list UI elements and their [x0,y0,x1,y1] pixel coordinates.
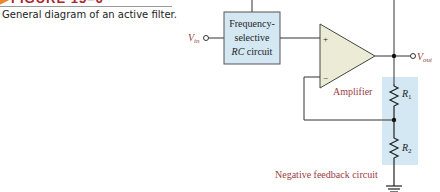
output-node [392,54,396,58]
feedback-network-highlight [382,77,418,165]
vin-label: Vin [188,32,200,45]
ground-icon [386,186,402,192]
plus-input-label: + [323,34,328,44]
block-line-3: RC circuit [231,46,273,57]
block-line-2: selective [235,32,271,43]
output-terminal [411,54,416,59]
block-line-1: Frequency- [229,18,275,29]
amplifier-triangle [320,24,375,88]
vout-label: Vout [417,51,433,64]
input-terminal [204,36,209,41]
minus-input-label: − [323,73,328,83]
active-filter-diagram: Vin Frequency- selective RC circuit + − … [0,0,440,192]
amplifier-label: Amplifier [333,86,373,97]
feedback-circuit-label: Negative feedback circuit [275,169,378,180]
